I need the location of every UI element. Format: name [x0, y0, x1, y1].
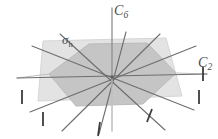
tick-lower-right-axis — [147, 109, 152, 122]
axis-intersection-point — [110, 75, 113, 78]
c2-label-subscript: 2 — [208, 62, 213, 72]
sigma-label-letter: σ — [62, 32, 68, 47]
sigma-h-plane-label: σh — [62, 33, 73, 46]
tick-bottom-axis — [98, 122, 100, 136]
c6-label-letter: C — [114, 3, 123, 18]
c2-axis-label: C2 — [198, 56, 212, 70]
c6-axis-label: C6 — [114, 4, 128, 18]
sigma-label-subscript: h — [69, 39, 73, 49]
c6-label-subscript: 6 — [124, 10, 129, 20]
symmetry-diagram-figure: C6 C2 σh — [0, 0, 218, 139]
symmetry-diagram-canvas — [0, 0, 218, 139]
c2-label-letter: C — [198, 55, 207, 70]
